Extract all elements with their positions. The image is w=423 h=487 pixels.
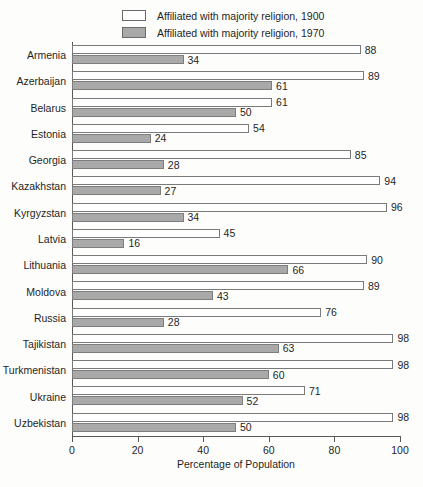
bar: [72, 308, 321, 317]
bar-chart: Affiliated with majority religion, 1900A…: [0, 0, 423, 487]
bar-row: 28: [72, 160, 400, 169]
category-label: Turkmenistan: [3, 364, 66, 376]
bar: [72, 423, 236, 432]
x-axis-tick-label: 80: [329, 444, 341, 456]
bar: [72, 386, 305, 395]
bar-group: Russia7628: [72, 305, 400, 331]
x-axis-tick: [203, 437, 204, 442]
bar-row: 98: [72, 334, 400, 343]
bar-value-label: 16: [128, 238, 140, 249]
bar-row: 76: [72, 308, 400, 317]
bar-row: 66: [72, 265, 400, 274]
bar-value-label: 54: [253, 123, 265, 134]
x-axis-tick-label: 100: [391, 444, 409, 456]
bar-row: 28: [72, 318, 400, 327]
bar: [72, 134, 151, 143]
x-axis-title: Percentage of Population: [72, 458, 400, 470]
bar-value-label: 24: [155, 133, 167, 144]
category-label: Armenia: [27, 49, 66, 61]
x-axis-tick: [138, 437, 139, 442]
bar-group: Kyrgyzstan9634: [72, 200, 400, 226]
bar-value-label: 61: [276, 97, 288, 108]
bar: [72, 265, 288, 274]
bar: [72, 239, 124, 248]
bar-group: Estonia5424: [72, 121, 400, 147]
bar: [72, 176, 380, 185]
bar-value-label: 52: [247, 395, 259, 406]
bar-group: Ukraine7152: [72, 383, 400, 409]
chart-legend: Affiliated with majority religion, 1900A…: [122, 8, 412, 42]
category-label: Kyrgyzstan: [14, 207, 66, 219]
bar: [72, 55, 184, 64]
bar-value-label: 61: [276, 80, 288, 91]
x-axis-tick: [400, 437, 401, 442]
bar-row: 71: [72, 386, 400, 395]
bar-value-label: 71: [309, 385, 321, 396]
category-label: Uzbekistan: [14, 417, 66, 429]
bar: [72, 150, 351, 159]
bar-row: 89: [72, 71, 400, 80]
bar-value-label: 76: [325, 307, 337, 318]
bar-group: Georgia8528: [72, 147, 400, 173]
bar: [72, 229, 220, 238]
bar-value-label: 34: [188, 212, 200, 223]
bar-row: 50: [72, 423, 400, 432]
bar-row: 85: [72, 150, 400, 159]
bar-row: 96: [72, 203, 400, 212]
bar-value-label: 94: [384, 175, 396, 186]
bar-value-label: 27: [165, 185, 177, 196]
bar-row: 34: [72, 213, 400, 222]
bar-row: 90: [72, 255, 400, 264]
bar-group: Turkmenistan9860: [72, 357, 400, 383]
bar-row: 98: [72, 360, 400, 369]
bar-row: 61: [72, 81, 400, 90]
x-axis-tick-label: 40: [197, 444, 209, 456]
bar-value-label: 66: [292, 264, 304, 275]
bar-row: 94: [72, 176, 400, 185]
bar: [72, 396, 243, 405]
bar-value-label: 28: [168, 159, 180, 170]
x-axis-tick: [72, 437, 73, 442]
bar-value-label: 34: [188, 54, 200, 65]
bar: [72, 344, 279, 353]
bar-row: 34: [72, 55, 400, 64]
bar-value-label: 90: [371, 254, 383, 265]
bar-value-label: 60: [273, 369, 285, 380]
bar-row: 89: [72, 281, 400, 290]
category-label: Latvia: [38, 233, 66, 245]
x-axis-tick-label: 20: [132, 444, 144, 456]
bar-row: 50: [72, 108, 400, 117]
bar-row: 52: [72, 396, 400, 405]
x-axis-tick-label: 60: [263, 444, 275, 456]
x-axis-tick: [269, 437, 270, 442]
bar: [72, 160, 164, 169]
bar: [72, 255, 367, 264]
category-label: Russia: [34, 312, 66, 324]
bar: [72, 203, 387, 212]
category-label: Estonia: [31, 128, 66, 140]
bar-value-label: 63: [283, 343, 295, 354]
bar-group: Armenia8834: [72, 42, 400, 68]
bar-value-label: 50: [240, 422, 252, 433]
category-label: Belarus: [30, 102, 66, 114]
bar-group: Lithuania9066: [72, 252, 400, 278]
bar-row: 27: [72, 186, 400, 195]
x-axis-line: [72, 436, 401, 437]
bar: [72, 81, 272, 90]
bar-group: Belarus6150: [72, 95, 400, 121]
bar-group: Uzbekistan9850: [72, 410, 400, 436]
bar-value-label: 98: [397, 333, 409, 344]
x-axis-tick-label: 0: [69, 444, 75, 456]
bar: [72, 186, 161, 195]
bar-group: Azerbaijan8961: [72, 68, 400, 94]
bar-value-label: 88: [365, 44, 377, 55]
bar-value-label: 89: [368, 70, 380, 81]
bar-group: Tajikistan9863: [72, 331, 400, 357]
bar-value-label: 45: [224, 228, 236, 239]
bar-row: 24: [72, 134, 400, 143]
bar-group: Kazakhstan9427: [72, 173, 400, 199]
bar-value-label: 85: [355, 149, 367, 160]
bar-group: Moldova8943: [72, 278, 400, 304]
category-label: Moldova: [26, 286, 66, 298]
bar-row: 63: [72, 344, 400, 353]
